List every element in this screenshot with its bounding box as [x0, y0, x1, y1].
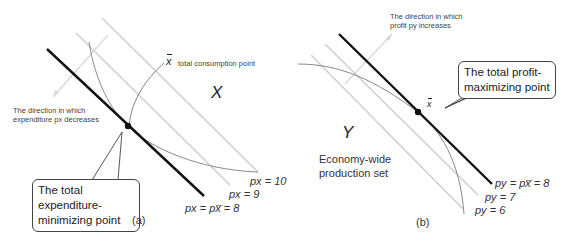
direction-label-b-line2: profit py increases — [390, 21, 463, 30]
direction-label-b-line1: The direction in which — [390, 12, 463, 21]
callout-a-line1: The total expenditure- — [38, 183, 134, 213]
line-label-py-8: py = px̅ = 8 — [495, 177, 549, 189]
caption-a: (a) — [132, 214, 145, 226]
production-set-line1: Economy-wide — [319, 152, 391, 166]
callout-profit-max: The total profit- maximizing point — [458, 61, 556, 99]
production-set-description: Economy-wide production set — [319, 152, 391, 180]
callout-a-line2: minimizing point — [38, 213, 134, 228]
callout-b-line1: The total profit- — [464, 65, 550, 80]
line-label-px-10: px = 10 — [250, 175, 286, 187]
callout-tail-a — [92, 132, 122, 180]
line-label-px-8: px = px̅ = 8 — [185, 202, 239, 214]
direction-arrow-b — [345, 34, 392, 84]
profit-max-point — [415, 109, 421, 115]
direction-label-b: The direction in which profit py increas… — [390, 12, 463, 30]
set-label-y: Y — [342, 123, 353, 143]
xbar-label-a: x — [166, 55, 172, 67]
line-label-py-7: py = 7 — [485, 191, 515, 203]
iso-line-px-10 — [102, 18, 258, 172]
direction-arrow-a — [53, 35, 108, 97]
production-set-line2: production set — [319, 166, 391, 180]
xbar-label-b: x — [427, 99, 432, 109]
direction-label-a-line2: expenditure px decreases — [13, 115, 99, 124]
set-label-x: X — [211, 83, 222, 103]
callout-expenditure-min: The total expenditure- minimizing point — [32, 179, 140, 232]
direction-label-a: The direction in which expenditure px de… — [13, 106, 99, 124]
line-label-px-9: px = 9 — [229, 188, 259, 200]
caption-b: (b) — [416, 216, 429, 228]
iso-line-px-9 — [76, 33, 230, 185]
line-label-py-6: py = 6 — [475, 204, 505, 216]
direction-label-a-line1: The direction in which — [13, 106, 99, 115]
production-set-boundary — [298, 64, 464, 214]
expenditure-min-point — [125, 123, 131, 129]
callout-b-line2: maximizing point — [464, 80, 550, 95]
consumption-point-label: total consumption point — [178, 59, 255, 68]
